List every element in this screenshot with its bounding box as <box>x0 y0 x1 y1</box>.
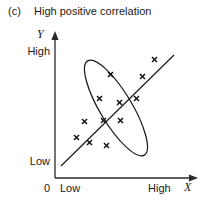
axis-group <box>51 31 198 182</box>
data-point <box>104 143 109 148</box>
data-envelope-group <box>61 53 174 166</box>
trend-line <box>61 55 174 166</box>
correlation-ellipse <box>74 53 158 164</box>
data-point <box>87 140 92 145</box>
data-point <box>140 74 145 79</box>
scatter-plot-canvas <box>0 0 210 212</box>
figure-panel: (c) High positive correlation Y High Low… <box>0 0 210 212</box>
x-axis-arrow-icon <box>189 174 198 181</box>
data-point <box>97 96 102 101</box>
data-point <box>134 96 139 101</box>
data-point <box>152 57 157 62</box>
data-point-markers <box>74 57 157 148</box>
data-point <box>74 135 79 140</box>
data-point <box>117 100 122 105</box>
data-point <box>118 118 123 123</box>
data-point <box>82 119 87 124</box>
y-axis-arrow-icon <box>51 31 58 40</box>
